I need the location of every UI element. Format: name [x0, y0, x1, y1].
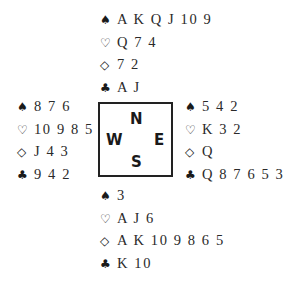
west-spades-row: ♠8 7 6	[17, 95, 94, 118]
north-spades-row: ♠A K Q J 10 9	[100, 8, 212, 31]
spade-icon: ♠	[100, 9, 117, 32]
west-diamonds: J 4 3	[34, 140, 69, 163]
north-hand: ♠A K Q J 10 9 ♡Q 7 4 ◇7 2 ♣A J	[100, 8, 212, 99]
spade-icon: ♠	[17, 96, 34, 119]
south-hearts: A J 6	[117, 207, 155, 230]
south-hand: ♠3 ♡A J 6 ◇A K 10 9 8 6 5 ♣K 10	[100, 184, 225, 275]
compass-west-label: W	[106, 133, 123, 148]
east-clubs: Q 8 7 6 5 3	[202, 163, 284, 186]
east-hearts: K 3 2	[202, 118, 242, 141]
west-clubs-row: ♣9 4 2	[17, 163, 94, 186]
north-diamonds: 7 2	[117, 53, 140, 76]
west-diamonds-row: ◇J 4 3	[17, 140, 94, 163]
diamond-icon: ◇	[100, 230, 117, 253]
heart-icon: ♡	[100, 32, 117, 55]
north-spades: A K Q J 10 9	[117, 8, 212, 31]
east-hearts-row: ♡K 3 2	[185, 118, 284, 141]
compass-east-label: E	[154, 133, 164, 148]
club-icon: ♣	[100, 77, 117, 100]
west-hand: ♠8 7 6 ♡10 9 8 5 ◇J 4 3 ♣9 4 2	[17, 95, 94, 186]
east-hand: ♠5 4 2 ♡K 3 2 ◇Q ♣Q 8 7 6 5 3	[185, 95, 284, 186]
compass-south-label: S	[131, 155, 142, 170]
diamond-icon: ◇	[185, 141, 202, 164]
west-clubs: 9 4 2	[34, 163, 71, 186]
west-spades: 8 7 6	[34, 95, 71, 118]
north-clubs: A J	[117, 76, 141, 99]
heart-icon: ♡	[100, 208, 117, 231]
north-hearts: Q 7 4	[117, 31, 157, 54]
south-spades-row: ♠3	[100, 184, 225, 207]
spade-icon: ♠	[100, 185, 117, 208]
east-spades: 5 4 2	[202, 95, 239, 118]
club-icon: ♣	[100, 253, 117, 276]
east-clubs-row: ♣Q 8 7 6 5 3	[185, 163, 284, 186]
south-hearts-row: ♡A J 6	[100, 207, 225, 230]
club-icon: ♣	[17, 164, 34, 187]
south-diamonds: A K 10 9 8 6 5	[117, 229, 225, 252]
north-hearts-row: ♡Q 7 4	[100, 31, 212, 54]
south-clubs-row: ♣K 10	[100, 252, 225, 275]
east-diamonds: Q	[202, 140, 214, 163]
west-hearts-row: ♡10 9 8 5	[17, 118, 94, 141]
heart-icon: ♡	[17, 119, 34, 142]
south-diamonds-row: ◇A K 10 9 8 6 5	[100, 229, 225, 252]
east-spades-row: ♠5 4 2	[185, 95, 284, 118]
compass-north-label: N	[130, 112, 143, 127]
compass-box: N W E S	[98, 102, 173, 177]
south-clubs: K 10	[117, 252, 152, 275]
east-diamonds-row: ◇Q	[185, 140, 284, 163]
west-hearts: 10 9 8 5	[34, 118, 94, 141]
spade-icon: ♠	[185, 96, 202, 119]
heart-icon: ♡	[185, 119, 202, 142]
diamond-icon: ◇	[17, 141, 34, 164]
diamond-icon: ◇	[100, 54, 117, 77]
north-diamonds-row: ◇7 2	[100, 53, 212, 76]
south-spades: 3	[117, 184, 126, 207]
